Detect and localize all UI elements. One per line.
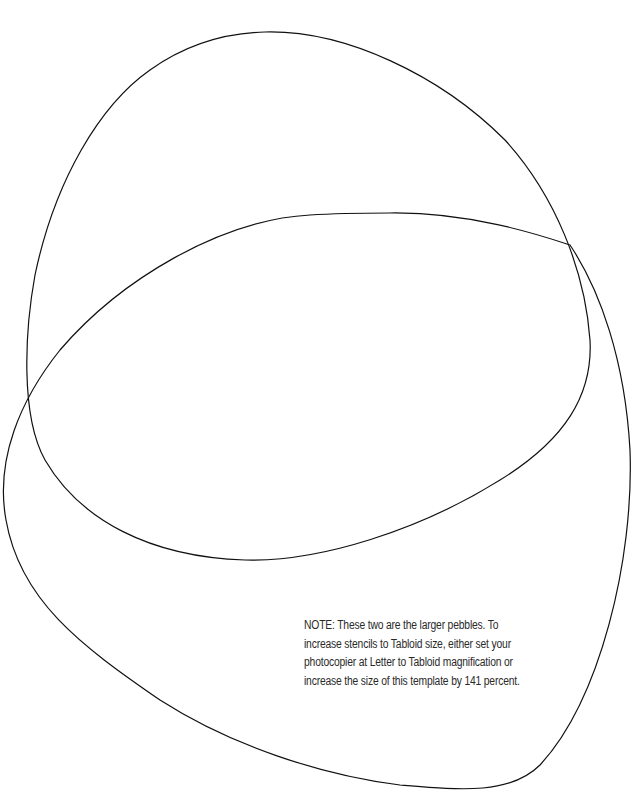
pebble-upper-outline [27, 32, 590, 560]
note-text-block: NOTE: These two are the larger pebbles. … [304, 616, 601, 690]
pebble-lower-outline [3, 213, 630, 789]
note-line: increase the size of this template by 14… [304, 672, 601, 691]
note-line: increase stencils to Tabloid size, eithe… [304, 635, 601, 654]
note-line: NOTE: These two are the larger pebbles. … [304, 616, 601, 635]
note-line: photocopier at Letter to Tabloid magnifi… [304, 653, 601, 672]
